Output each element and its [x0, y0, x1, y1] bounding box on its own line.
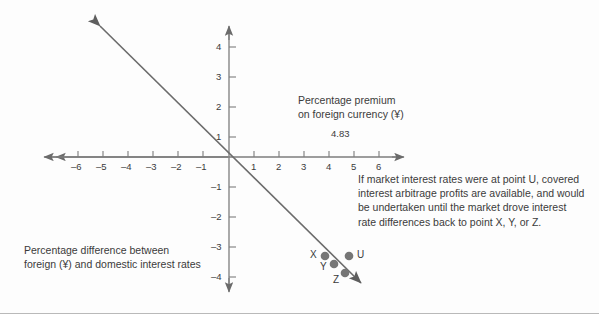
- xtick-label: 2: [276, 161, 281, 172]
- xtick-label: –6: [71, 161, 82, 172]
- point-y: [330, 260, 339, 269]
- ytick-label: –2: [211, 211, 222, 222]
- xtick-label: 3: [301, 161, 306, 172]
- premium-value-label: 4.83: [331, 128, 350, 141]
- xtick-label: –4: [121, 161, 132, 172]
- ytick-label: 2: [216, 101, 221, 112]
- point-z: [341, 269, 350, 278]
- annotation-text: If market interest rates were at point U…: [358, 172, 584, 229]
- point-label-z: Z: [333, 274, 339, 285]
- point-x: [321, 252, 330, 261]
- point-label-u: U: [357, 249, 364, 260]
- xtick-label: 6: [376, 161, 381, 172]
- point-label-x: X: [310, 249, 317, 260]
- xtick-label: 5: [351, 161, 356, 172]
- ytick-label: –1: [211, 181, 222, 192]
- ytick-label: 4: [216, 41, 221, 52]
- x-axis: [44, 151, 404, 157]
- xtick-label: 4: [326, 161, 331, 172]
- figure-panel: –6 –5 –4 –3 –2 –1 1 2 3 4 5 6 4 3 2 1 –1…: [0, 0, 599, 314]
- xtick-label: –3: [146, 161, 157, 172]
- xtick-label: –5: [96, 161, 107, 172]
- point-label-y: Y: [320, 261, 327, 272]
- vertical-axis-title: Percentage premium on foreign currency (…: [298, 93, 404, 121]
- horizontal-axis-title: Percentage difference between foreign (¥…: [24, 243, 201, 271]
- point-u: [345, 252, 354, 261]
- xtick-label: –1: [196, 161, 207, 172]
- xtick-label: –2: [171, 161, 182, 172]
- ytick-label: 1: [216, 131, 221, 142]
- ytick-label: –3: [211, 241, 222, 252]
- ytick-label: –4: [211, 271, 222, 282]
- ytick-label: 3: [216, 71, 221, 82]
- xtick-label: 1: [251, 161, 256, 172]
